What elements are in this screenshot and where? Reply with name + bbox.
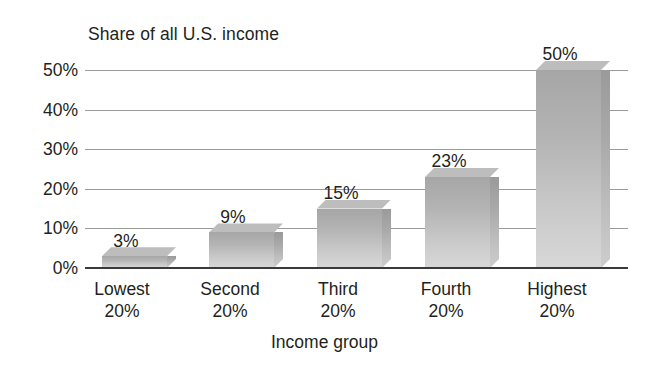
bar-front-third xyxy=(317,209,382,268)
bar-front-fourth xyxy=(425,177,490,268)
y-tick-label-20: 20% xyxy=(8,178,78,199)
x-axis-title: Income group xyxy=(0,332,657,353)
x-category-label-third: Third 20% xyxy=(318,278,358,322)
bar-side-highest xyxy=(601,70,610,268)
bar-front-highest xyxy=(536,70,601,268)
x-category-line1-highest: Highest xyxy=(527,278,586,300)
bar-value-label-second: 9% xyxy=(220,207,245,228)
x-category-line1-lowest: Lowest xyxy=(94,278,149,300)
bar-highest-20 xyxy=(536,70,601,268)
y-tick-label-0: 0% xyxy=(8,258,78,279)
plot-area xyxy=(85,70,628,268)
x-category-line2-fourth: 20% xyxy=(421,300,472,322)
x-category-line1-second: Second xyxy=(200,278,259,300)
x-category-line2-third: 20% xyxy=(318,300,358,322)
x-category-line2-lowest: 20% xyxy=(94,300,149,322)
x-category-line2-highest: 20% xyxy=(527,300,586,322)
bar-value-label-third: 15% xyxy=(323,183,358,204)
x-axis-line xyxy=(85,267,628,269)
x-category-line1-fourth: Fourth xyxy=(421,278,472,300)
bar-fourth-20 xyxy=(425,177,490,268)
y-tick-label-30: 30% xyxy=(8,139,78,160)
x-category-line2-second: 20% xyxy=(200,300,259,322)
y-tick-label-10: 10% xyxy=(8,218,78,239)
bar-side-third xyxy=(382,209,391,268)
bar-chart: Share of all U.S. income 0% 10% 20% 30% … xyxy=(0,0,657,380)
x-axis-title-text: Income group xyxy=(271,332,378,352)
bar-third-20 xyxy=(317,209,382,268)
bar-front-second xyxy=(209,232,274,268)
bar-second-20 xyxy=(209,232,274,268)
y-tick-label-50: 50% xyxy=(8,60,78,81)
bar-value-label-highest: 50% xyxy=(542,44,577,65)
x-category-label-second: Second 20% xyxy=(200,278,259,322)
y-tick-label-40: 40% xyxy=(8,99,78,120)
y-axis-labels: 0% 10% 20% 30% 40% 50% xyxy=(0,0,78,380)
bar-value-label-fourth: 23% xyxy=(431,151,466,172)
bar-side-fourth xyxy=(490,177,499,268)
bar-side-second xyxy=(274,232,283,268)
x-category-line1-third: Third xyxy=(318,278,358,300)
x-category-label-lowest: Lowest 20% xyxy=(94,278,149,322)
x-category-label-highest: Highest 20% xyxy=(527,278,586,322)
bar-value-label-lowest: 3% xyxy=(113,231,138,252)
chart-title: Share of all U.S. income xyxy=(88,24,279,45)
x-category-label-fourth: Fourth 20% xyxy=(421,278,472,322)
